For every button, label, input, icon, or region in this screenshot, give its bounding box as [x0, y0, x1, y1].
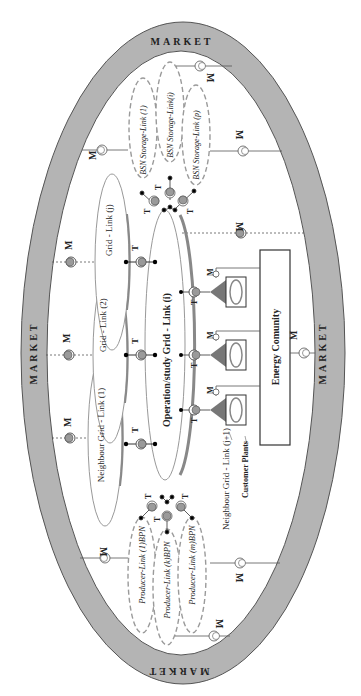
- grid-link-j-label: Grid - Link (j): [104, 204, 114, 256]
- energy-market-diagram: MARKET MARKET MARKET MARKET Grid - Link …: [0, 0, 361, 696]
- m-label: M: [206, 268, 215, 276]
- producer-link-k-label: Producer-Link (k)BPN: [162, 540, 172, 620]
- m-label: M: [288, 330, 299, 340]
- t-label: T: [190, 417, 199, 423]
- energy-community-label: Energy Comunity: [270, 309, 281, 385]
- t-label: T: [190, 299, 199, 305]
- market-label-top: MARKET: [151, 36, 214, 47]
- t-label: T: [130, 245, 140, 251]
- producer-link-m-label: Producer-Link (m)BPN: [187, 524, 197, 606]
- t-label: T: [143, 208, 152, 214]
- m-label: M: [62, 417, 73, 427]
- t-label: T: [181, 493, 190, 499]
- neighbour-grid-link-1-label: Neighbour Grid - Link (1): [96, 388, 106, 482]
- m-label: M: [206, 331, 215, 339]
- m-label: M: [206, 386, 215, 394]
- main-grid-label: Operation/study Grid - Link (i): [161, 293, 173, 427]
- t-label: T: [153, 516, 162, 522]
- m-label: M: [98, 547, 109, 557]
- customer-plants-label: Customer Plants: [241, 441, 250, 498]
- m-label: M: [205, 73, 216, 83]
- t-label: T: [186, 208, 195, 214]
- m-label: M: [214, 619, 225, 629]
- m-label: M: [87, 150, 98, 160]
- storage-link-p-label: BSN Storage-Link (p): [192, 110, 201, 180]
- m-label: M: [234, 130, 245, 140]
- t-label: T: [130, 338, 140, 344]
- storage-link-1-label: BSN Storage-Link (1): [139, 105, 148, 175]
- m-label: M: [63, 240, 74, 250]
- storage-link-i-label: BSN Storage-Link(i): [166, 92, 175, 158]
- m-label: M: [234, 222, 245, 232]
- t-label: T: [154, 184, 163, 190]
- neighbour-grid-j1-label: Neighbour Grid - Link (j+1): [221, 428, 231, 530]
- m-label: M: [61, 333, 72, 343]
- grid-link-2-label: Grid - Link (2): [98, 298, 108, 352]
- market-label-bottom: MARKET: [147, 666, 210, 677]
- t-label: T: [190, 362, 199, 368]
- producer-link-1-label: Producer-Link (1)BPN: [137, 525, 147, 605]
- market-label-right: MARKET: [317, 322, 328, 385]
- m-label: M: [234, 573, 245, 583]
- t-label: T: [144, 493, 153, 499]
- market-label-left: MARKET: [28, 322, 39, 385]
- t-label: T: [130, 427, 140, 433]
